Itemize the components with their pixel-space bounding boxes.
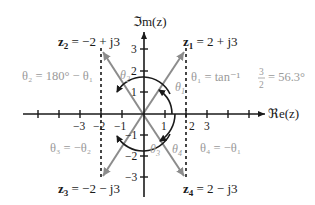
x-tick-label: 1 [161,120,167,132]
angle-label-theta3: θ3 [150,142,160,158]
complex-plane-diagram: ℑm(z) ℜe(z) −3 −2 −1 1 2 3 3 2 1 −1 −2 −… [0,0,315,205]
formula-theta3: θ₃ = −θ₂ [50,141,91,155]
x-tick-label: −2 [93,120,105,132]
y-tick-label: −2 [125,150,137,162]
x-axis-label: ℜe(z) [268,106,299,121]
angle-label-theta1: θ1 [175,80,185,96]
x-tick-label: 2 [189,120,195,132]
point-label-z3: z3 = −2 − j3 [58,181,120,198]
y-tick-label: −1 [125,129,137,141]
y-tick-label: 2 [131,65,137,77]
formula-theta1: θ₁ = tan⁻¹ 3 2 = 56.3° [191,67,305,90]
point-label-z4: z4 = 2 − j3 [183,181,238,198]
svg-text:θ₁ = tan⁻¹: θ₁ = tan⁻¹ [191,70,241,84]
y-tick-label: 3 [131,43,137,55]
svg-text:3: 3 [259,67,264,77]
x-tick-label: −3 [73,120,85,132]
point-label-z1: z1 = 2 + j3 [183,34,238,51]
x-tick-label: 3 [204,120,210,132]
svg-text:= 56.3°: = 56.3° [268,70,305,84]
y-axis-label: ℑm(z) [133,14,167,29]
y-tick-label: 1 [131,86,137,98]
svg-text:2: 2 [259,80,264,90]
vector-z2 [103,52,143,114]
formula-theta2: θ₂ = 180° − θ₁ [22,69,93,83]
angle-label-theta2: θ2 [120,68,130,84]
point-label-z2: z2 = −2 + j3 [58,34,120,51]
angle-label-theta4: θ4 [172,142,182,158]
y-tick-label: −3 [125,171,137,183]
formula-theta4: θ₄ = −θ₁ [200,141,241,155]
